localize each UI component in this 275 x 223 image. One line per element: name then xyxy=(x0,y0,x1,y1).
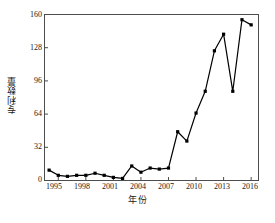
data-point-marker xyxy=(222,33,225,36)
data-point-marker xyxy=(250,23,253,26)
x-axis-ticks xyxy=(58,177,251,181)
y-axis-ticks xyxy=(45,15,49,181)
data-point-marker xyxy=(204,90,207,93)
data-point-marker xyxy=(75,174,78,177)
data-point-marker xyxy=(57,174,60,177)
data-point-marker xyxy=(240,18,243,21)
plot-area xyxy=(0,0,275,223)
data-point-marker xyxy=(213,49,216,52)
data-point-marker xyxy=(112,176,115,179)
data-line xyxy=(49,20,251,179)
patent-count-line-chart: 专利数量 160 128 96 64 32 0 1995 1998 2001 2… xyxy=(0,0,275,223)
data-markers xyxy=(47,18,252,180)
data-point-marker xyxy=(66,175,69,178)
data-point-marker xyxy=(130,164,133,167)
axis-frame xyxy=(45,15,259,181)
data-point-marker xyxy=(194,111,197,114)
plot-border xyxy=(45,15,259,181)
data-point-marker xyxy=(149,166,152,169)
data-point-marker xyxy=(121,177,124,180)
data-point-marker xyxy=(103,174,106,177)
data-point-marker xyxy=(176,130,179,133)
data-point-marker xyxy=(231,90,234,93)
data-point-marker xyxy=(158,167,161,170)
data-point-marker xyxy=(93,172,96,175)
data-point-marker xyxy=(139,171,142,174)
data-point-marker xyxy=(167,166,170,169)
data-point-marker xyxy=(47,169,50,172)
data-point-marker xyxy=(84,174,87,177)
data-point-marker xyxy=(185,139,188,142)
